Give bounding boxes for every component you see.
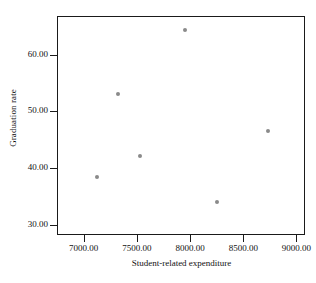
x-axis-tick-label: 8500.00 — [213, 243, 273, 253]
y-axis-title: Graduation rate — [2, 0, 24, 235]
x-axis-tick — [190, 235, 191, 242]
y-axis-tick — [50, 55, 57, 56]
x-axis-tick — [243, 235, 244, 242]
x-axis-tick-label: 8000.00 — [160, 243, 220, 253]
y-axis-title-text: Graduation rate — [8, 89, 18, 147]
x-axis-tick-label: 7500.00 — [107, 243, 167, 253]
x-axis-tick-label: 7000.00 — [54, 243, 114, 253]
y-axis-tick-label: 60.00 — [4, 49, 48, 59]
data-point — [138, 154, 142, 158]
data-point — [215, 200, 219, 204]
y-axis-tick — [50, 111, 57, 112]
x-axis-tick — [296, 235, 297, 242]
x-axis-tick — [137, 235, 138, 242]
y-axis-tick — [50, 168, 57, 169]
x-axis-tick — [84, 235, 85, 242]
y-axis-tick-label: 40.00 — [4, 162, 48, 172]
scatter-plot-figure: Graduation rate 30.0040.0050.0060.00 700… — [0, 0, 316, 283]
plot-frame — [57, 16, 305, 235]
data-point — [266, 129, 270, 133]
x-axis-title: Student-related expenditure — [57, 258, 306, 268]
data-point — [183, 28, 187, 32]
y-axis-tick-label: 50.00 — [4, 105, 48, 115]
y-axis-tick — [50, 225, 57, 226]
data-point — [116, 92, 120, 96]
y-axis-tick-label: 30.00 — [4, 219, 48, 229]
x-axis-tick-label: 9000.00 — [266, 243, 316, 253]
